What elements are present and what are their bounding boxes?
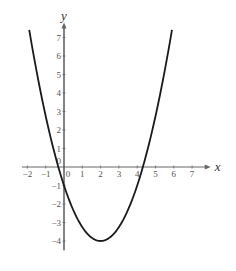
tick-label: −1	[51, 181, 61, 191]
tick-label: −4	[51, 236, 61, 246]
tick-label: −2	[51, 199, 61, 209]
tick-label: 7	[190, 169, 195, 179]
tick-label: 4	[57, 88, 62, 98]
tick-label: 2	[57, 125, 62, 135]
tick-label: 1	[57, 144, 62, 154]
tick-label: 6	[57, 51, 62, 61]
x-axis-label: x	[214, 159, 221, 174]
x-axis-arrow-icon	[205, 165, 211, 170]
y-axis-label: y	[59, 8, 67, 23]
parabola-plot: −2−1012345671234567−1−2−3−40 x y	[0, 0, 236, 271]
tick-label: 3	[117, 169, 122, 179]
tick-label: −1	[41, 169, 51, 179]
tick-label: −2	[23, 169, 33, 179]
tick-label: 5	[153, 169, 158, 179]
tick-label: 2	[98, 169, 103, 179]
tick-label: 1	[80, 169, 85, 179]
tick-label: 7	[57, 33, 62, 43]
tick-label: 5	[57, 70, 62, 80]
parabola-curve	[29, 30, 172, 241]
tick-label: −3	[51, 218, 61, 228]
tick-label: 0	[66, 169, 71, 179]
tick-labels: −2−1012345671234567−1−2−3−40	[23, 33, 195, 247]
tick-label: 6	[172, 169, 177, 179]
tick-label: 3	[57, 107, 62, 117]
